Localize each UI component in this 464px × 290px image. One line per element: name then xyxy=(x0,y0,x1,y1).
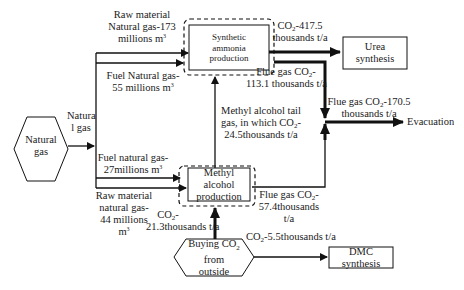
methanol-tail-post: - xyxy=(297,117,301,128)
co2-urea-line1: CO2-417.5 xyxy=(265,20,335,32)
methanol-label-line1: Methyl alcohol xyxy=(188,167,250,191)
raw-ng-methanol-line1: Raw material xyxy=(94,190,154,202)
natural-gas-in-line1: Natura xyxy=(67,110,95,122)
co2-buy-methanol-post: - xyxy=(175,209,179,220)
raw-ng-methanol-line3: 44 millions xyxy=(94,214,154,226)
co2-buy-methanol-label: CO2- 21.3thousands t/a xyxy=(146,209,218,233)
buying-co2-label-line2: from xyxy=(204,254,224,266)
fuel-ng-methanol-unit: 27millions m xyxy=(104,164,160,175)
buying-co2-label-line3: outside xyxy=(199,266,229,278)
raw-ng-methanol-sup: 3 xyxy=(127,226,130,232)
raw-ng-methanol-label: Raw material natural gas- 44 millions m3 xyxy=(94,190,154,238)
natural-gas-label-line2: gas xyxy=(34,146,48,158)
fuel-ng-ammonia-line2: 55 millions m3 xyxy=(103,82,183,94)
methanol-label-line2: production xyxy=(196,191,242,203)
evacuation-label: Evacuation xyxy=(407,116,454,128)
buying-co2-text: Buying CO xyxy=(188,238,236,249)
fuel-ng-ammonia-line1: Fuel Natural gas- xyxy=(103,70,183,82)
urea-label-line2: synthesis xyxy=(356,53,395,65)
raw-ng-ammonia-unit: millions m xyxy=(118,33,163,44)
co2-buy-methanol-pre: CO xyxy=(157,209,172,220)
methanol-tail-line2: gas, in which CO2- xyxy=(218,117,304,129)
natural-gas-label: Natural gas xyxy=(14,128,68,164)
methanol-tail-pre: gas, in which CO xyxy=(221,117,294,128)
ammonia-label-line2: ammonia xyxy=(212,43,246,54)
raw-ng-ammonia-label: Raw material Natural gas-173 millions m3 xyxy=(102,9,182,45)
raw-ng-methanol-unit: m xyxy=(118,226,126,237)
fuel-ng-methanol-line1: Fuel natural gas- xyxy=(97,152,169,164)
raw-ng-ammonia-line3: millions m3 xyxy=(102,33,182,45)
flue-total-label: Flue gas CO2-170.5 thousands t/a xyxy=(326,96,412,120)
flue-methanol-line2: 57.4thousands xyxy=(258,201,320,213)
co2-buy-methanol-line2: 21.3thousands t/a xyxy=(146,221,218,233)
raw-ng-ammonia-sup: 3 xyxy=(163,33,166,39)
natural-gas-in-label: Natura l gas xyxy=(67,110,95,134)
flue-methanol-post: - xyxy=(315,189,319,200)
natural-gas-in-line2: l gas xyxy=(67,122,95,134)
flue-total-line2: thousands t/a xyxy=(326,108,412,120)
raw-ng-ammonia-line1: Raw material xyxy=(102,9,182,21)
fuel-ng-ammonia-unit: 55 millions m xyxy=(112,82,170,93)
buying-co2-sub: 2 xyxy=(236,244,240,252)
buying-co2-label-line1: Buying CO2 xyxy=(188,238,240,254)
flue-ammonia-post: - xyxy=(312,66,316,77)
fuel-ng-ammonia-label: Fuel Natural gas- 55 millions m3 xyxy=(103,70,183,94)
methanol-tail-label: Methyl alcohol tail gas, in which CO2- 2… xyxy=(218,105,304,141)
flue-methanol-line xyxy=(252,140,325,187)
buying-co2-label: Buying CO2 from outside xyxy=(178,240,250,276)
flue-methanol-pre: Flue gas CO xyxy=(259,189,312,200)
raw-ng-methanol-line2: natural gas- xyxy=(94,202,154,214)
raw-ng-ammonia-line2: Natural gas-173 xyxy=(102,21,182,33)
co2-dmc-post: -5.5thousands t/a xyxy=(264,231,336,242)
methanol-tail-line3: 24.5thousands t/a xyxy=(218,129,304,141)
co2-urea-label: CO2-417.5 thousands t/a xyxy=(265,20,335,44)
urea-label: Urea synthesis xyxy=(343,37,407,69)
flue-ammonia-label: Flue gas CO2- 113.1 thousands t/a xyxy=(246,66,326,90)
methanol-label: Methyl alcohol production xyxy=(188,168,250,201)
methanol-tail-line1: Methyl alcohol tail xyxy=(218,105,304,117)
co2-urea-post: -417.5 xyxy=(295,20,322,31)
flue-total-post: -170.5 xyxy=(383,96,410,107)
co2-urea-pre: CO xyxy=(277,20,292,31)
fuel-ng-methanol-label: Fuel natural gas- 27millions m3 xyxy=(97,152,169,176)
flue-methanol-line1: Flue gas CO2- xyxy=(258,189,320,201)
fuel-ng-ammonia-sup: 3 xyxy=(171,82,174,88)
ammonia-label-line1: Synthetic xyxy=(212,32,246,43)
ammonia-label: Synthetic ammonia production xyxy=(189,26,269,70)
fuel-ng-methanol-line2: 27millions m3 xyxy=(97,164,169,176)
flue-total-line1: Flue gas CO2-170.5 xyxy=(326,96,412,108)
flue-methanol-label: Flue gas CO2- 57.4thousands t/a xyxy=(258,189,320,225)
urea-label-line1: Urea xyxy=(365,41,385,53)
co2-urea-line2: thousands t/a xyxy=(265,32,335,44)
flue-ammonia-pre: Flue gas CO xyxy=(256,66,309,77)
flue-ammonia-line2: 113.1 thousands t/a xyxy=(246,78,326,90)
flue-methanol-line3: t/a xyxy=(258,213,320,225)
flue-total-pre: Flue gas CO xyxy=(327,96,380,107)
raw-ng-methanol-line4: m3 xyxy=(94,226,154,238)
co2-dmc-pre: CO xyxy=(246,231,261,242)
dmc-label: DMC synthesis xyxy=(329,247,393,268)
ammonia-label-line3: production xyxy=(210,53,249,64)
natural-gas-label-line1: Natural xyxy=(25,134,57,146)
fuel-ng-methanol-sup: 3 xyxy=(159,164,162,170)
co2-dmc-label: CO2-5.5thousands t/a xyxy=(246,231,334,243)
flue-ammonia-line1: Flue gas CO2- xyxy=(246,66,326,78)
co2-buy-methanol-line1: CO2- xyxy=(146,209,218,221)
